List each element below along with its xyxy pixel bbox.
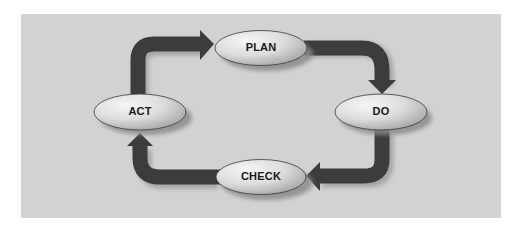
arrow-act-to-plan	[138, 30, 214, 96]
node-label-plan: PLAN	[221, 41, 301, 53]
node-label-do: DO	[341, 105, 421, 117]
arrow-check-to-act	[127, 133, 220, 177]
node-label-check: CHECK	[221, 170, 301, 182]
arrow-do-to-check	[306, 128, 382, 191]
arrow-plan-to-do	[304, 48, 396, 94]
pdca-cycle-diagram	[0, 0, 521, 229]
node-label-act: ACT	[100, 105, 180, 117]
